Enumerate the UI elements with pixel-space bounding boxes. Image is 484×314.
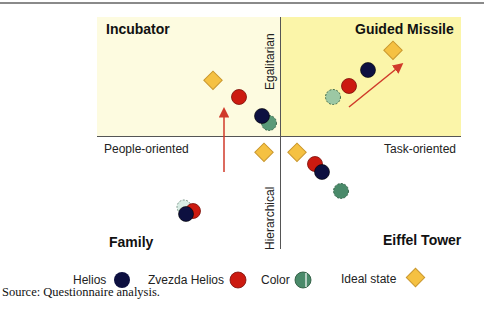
legend-label-color: Color — [261, 273, 290, 287]
helios-marker — [179, 207, 194, 222]
helios-marker — [361, 63, 376, 78]
ideal-state-marker — [288, 143, 306, 161]
color-marker — [326, 90, 341, 105]
legend-zvezda-helios-icon — [230, 272, 246, 288]
ideal-state-marker — [384, 41, 402, 59]
ideal-state-marker — [255, 143, 273, 161]
helios-marker — [255, 109, 270, 124]
ideal-state-marker — [204, 71, 222, 89]
zvezda-helios-marker — [232, 90, 247, 105]
legend-color-icon — [295, 272, 311, 288]
plot-area — [0, 0, 484, 314]
helios-marker — [315, 165, 330, 180]
color-marker — [334, 184, 349, 199]
source-note: Source: Questionnaire analysis. — [2, 285, 160, 300]
legend-label-ideal-state: Ideal state — [341, 272, 396, 286]
legend-ideal-state-icon — [406, 268, 424, 286]
zvezda-helios-marker — [342, 79, 357, 94]
